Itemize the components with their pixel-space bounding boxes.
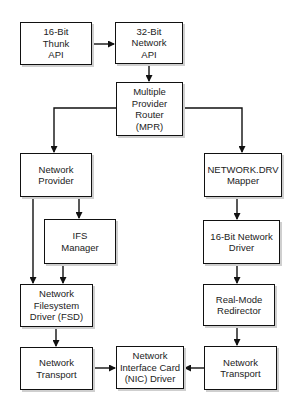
node-nic-driver: Network Interface Card (NIC) Driver (116, 346, 184, 389)
node-network-drv-mapper: NETWORK.DRV Mapper (204, 153, 282, 197)
node-mpr: Multiple Provider Router (MPR) (116, 82, 183, 136)
edge-mpr-ndrv (183, 108, 242, 152)
node-ifs-manager: IFS Manager (44, 219, 116, 264)
node-16bit-thunk-api: 16-Bit Thunk API (20, 22, 92, 65)
node-network-transport-left: Network Transport (20, 347, 93, 390)
node-32bit-network-api: 32-Bit Network API (115, 22, 183, 64)
diagram-canvas: 16-Bit Thunk API 32-Bit Network API Mult… (0, 0, 295, 412)
edge-mpr-np (54, 108, 116, 152)
node-real-mode-redirector: Real-Mode Redirector (203, 284, 275, 326)
node-16bit-network-driver: 16-Bit Network Driver (203, 220, 280, 264)
node-network-provider: Network Provider (20, 153, 92, 197)
node-network-transport-right: Network Transport (204, 346, 277, 390)
node-fsd: Network Filesystem Driver (FSD) (20, 284, 93, 327)
